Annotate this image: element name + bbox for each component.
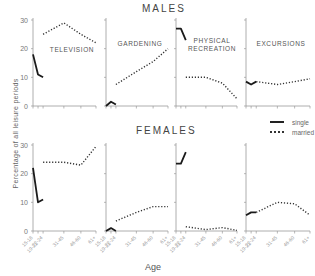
svg-text:31-45: 31-45 xyxy=(265,234,278,247)
married-series-line xyxy=(116,207,168,221)
single-series-line xyxy=(106,228,116,231)
panel-males-excursions: EXCURSIONS xyxy=(244,18,310,109)
svg-text:20: 20 xyxy=(20,45,28,52)
panel-females-television: 010203015-1819-2122-2431-4546-6061+ xyxy=(20,142,97,254)
panel-females-physical-recreation: 15-1819-2122-2431-4546-6061+ xyxy=(163,143,237,254)
svg-text:10: 10 xyxy=(20,74,28,81)
single-series-line xyxy=(106,102,116,106)
legend: single married xyxy=(270,117,314,137)
single-line-swatch xyxy=(270,121,284,123)
panel-males-gardening: GARDENING xyxy=(104,18,168,109)
svg-text:10: 10 xyxy=(20,199,28,206)
svg-text:61+: 61+ xyxy=(300,234,310,244)
svg-text:31-45: 31-45 xyxy=(51,234,64,247)
married-series-line xyxy=(186,227,237,231)
svg-text:0: 0 xyxy=(24,103,28,110)
panel-males-television: 0102030TELEVISION xyxy=(20,17,96,110)
married-series-line xyxy=(256,202,310,215)
single-series-line xyxy=(176,152,186,163)
single-series-line xyxy=(176,29,186,40)
legend-label-married: married xyxy=(292,129,314,136)
married-series-line xyxy=(116,49,168,85)
single-series-line xyxy=(246,212,256,215)
svg-text:0: 0 xyxy=(24,228,28,235)
svg-text:31-45: 31-45 xyxy=(193,234,206,247)
married-line-swatch xyxy=(270,131,284,133)
svg-text:EXCURSIONS: EXCURSIONS xyxy=(257,40,306,47)
svg-text:TELEVISION: TELEVISION xyxy=(50,46,94,53)
panel-females-excursions: 15-1819-2122-2431-4546-6061+ xyxy=(233,143,310,254)
legend-item-married: married xyxy=(270,127,314,137)
single-series-line xyxy=(33,168,43,202)
legend-item-single: single xyxy=(270,117,314,127)
svg-text:31-45: 31-45 xyxy=(124,234,137,247)
married-series-line xyxy=(186,77,237,99)
legend-label-single: single xyxy=(292,119,309,126)
svg-text:46-60: 46-60 xyxy=(210,234,223,247)
svg-text:46-60: 46-60 xyxy=(282,234,295,247)
married-series-line xyxy=(43,146,96,165)
svg-text:20: 20 xyxy=(20,170,28,177)
svg-text:GARDENING: GARDENING xyxy=(118,40,163,47)
single-series-line xyxy=(246,82,256,85)
svg-text:PHYSICAL: PHYSICAL xyxy=(194,37,231,44)
panel-males-physical-recreation: PHYSICALRECREATION xyxy=(174,18,237,109)
married-series-line xyxy=(256,79,310,85)
chart-canvas: 0102030TELEVISIONGARDENINGPHYSICALRECREA… xyxy=(0,0,315,276)
svg-text:RECREATION: RECREATION xyxy=(188,45,236,52)
panel-females-gardening: 15-1819-2122-2431-4546-6061+ xyxy=(93,143,168,254)
married-series-line xyxy=(43,23,96,43)
single-series-line xyxy=(33,54,43,77)
svg-text:46-60: 46-60 xyxy=(68,234,81,247)
svg-text:30: 30 xyxy=(20,17,28,24)
svg-text:30: 30 xyxy=(20,142,28,149)
svg-text:46-60: 46-60 xyxy=(141,234,154,247)
